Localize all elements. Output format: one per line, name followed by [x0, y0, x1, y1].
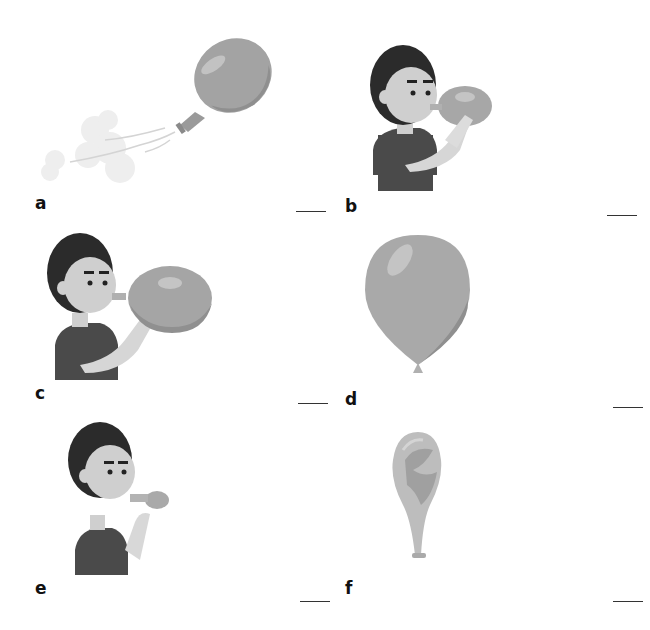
answer-blank-c[interactable] [298, 403, 328, 404]
panel-a: a [0, 0, 325, 215]
panel-label-e: e [35, 578, 47, 598]
boy-blowing-large-balloon-icon [0, 215, 230, 395]
panel-f: f [325, 410, 650, 610]
boy-blowing-small-balloon-icon [0, 410, 200, 580]
answer-blank-f[interactable] [613, 601, 643, 602]
panel-d: d [325, 215, 650, 410]
boy-blowing-medium-balloon-icon [325, 0, 525, 200]
empty-deflated-balloon-icon [325, 410, 525, 580]
panel-label-f: f [345, 578, 352, 598]
answer-blank-a[interactable] [296, 211, 326, 212]
panel-e: e [0, 410, 325, 610]
answer-blank-d[interactable] [613, 407, 643, 408]
panel-b: b [325, 0, 650, 215]
panel-label-d: d [345, 389, 357, 409]
fully-inflated-balloon-icon [325, 215, 525, 395]
panel-label-b: b [345, 196, 357, 216]
panel-label-a: a [35, 193, 46, 213]
panel-c: c [0, 215, 325, 410]
balloon-deflating-flying-icon [0, 0, 325, 200]
panel-label-c: c [35, 383, 45, 403]
